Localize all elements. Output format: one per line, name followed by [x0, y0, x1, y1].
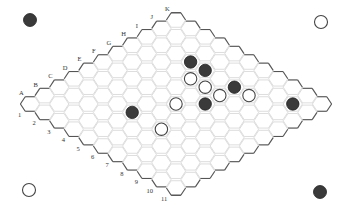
column-label-G: G: [107, 39, 112, 46]
column-label-B: B: [34, 81, 39, 88]
black-stone-J10: [287, 98, 299, 110]
row-label-6: 6: [91, 153, 95, 160]
white-stone-F6: [170, 98, 182, 110]
column-label-J: J: [150, 13, 153, 20]
column-label-D: D: [63, 64, 68, 71]
column-label-F: F: [92, 47, 96, 54]
column-label-K: K: [165, 5, 170, 12]
white-stone-I8: [243, 89, 255, 101]
bottom-right-black-marker-icon: [314, 186, 327, 199]
row-label-4: 4: [62, 136, 66, 143]
white-stone-H6: [199, 81, 211, 93]
hex-board: ABCDEFGHIJK1234567891011: [0, 0, 346, 213]
column-label-I: I: [136, 22, 138, 29]
top-left-black-marker-icon: [24, 14, 37, 27]
row-label-5: 5: [76, 145, 79, 152]
top-right-white-marker-icon: [315, 16, 328, 29]
row-label-9: 9: [135, 178, 138, 185]
black-stone-D5: [126, 106, 138, 118]
row-label-3: 3: [47, 128, 50, 135]
black-stone-I4: [184, 56, 196, 68]
black-stone-I7: [228, 81, 240, 93]
row-label-2: 2: [33, 119, 36, 126]
white-stone-H5: [184, 73, 196, 85]
white-stone-H7: [214, 89, 226, 101]
white-stone-D7: [155, 123, 167, 135]
column-label-H: H: [121, 30, 126, 37]
row-label-7: 7: [106, 161, 110, 168]
row-label-11: 11: [161, 195, 167, 202]
column-label-E: E: [77, 55, 81, 62]
black-stone-G7: [199, 98, 211, 110]
column-label-A: A: [19, 89, 24, 96]
row-label-1: 1: [18, 111, 21, 118]
column-label-C: C: [48, 72, 52, 79]
black-stone-I5: [199, 64, 211, 76]
row-label-8: 8: [120, 170, 123, 177]
row-label-10: 10: [146, 187, 153, 194]
bottom-left-white-marker-icon: [23, 184, 36, 197]
